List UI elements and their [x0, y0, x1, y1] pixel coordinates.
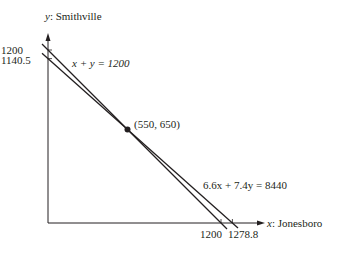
line2-label: 6.6x + 7.4y = 8440 — [203, 179, 287, 191]
y-axis-arrow-icon — [46, 33, 51, 41]
x-axis-label: x: Jonesboro — [266, 217, 323, 229]
x-axis-arrow-icon — [257, 221, 265, 226]
line1-label: x + y = 1200 — [71, 57, 130, 69]
line-6-6x-plus-7-4y — [42, 53, 238, 228]
y-axis-label: y: Smithville — [44, 10, 102, 22]
intersection-point — [125, 127, 131, 133]
point-label: (550, 650) — [134, 118, 180, 131]
y-tick-label-1140: 1140.5 — [1, 54, 31, 66]
intersecting-lines-diagram: y: Smithville x: Jonesboro 1200 1140.5 1… — [0, 0, 337, 253]
x-tick-label-1278: 1278.8 — [228, 228, 259, 240]
x-tick-label-1200: 1200 — [200, 228, 223, 240]
